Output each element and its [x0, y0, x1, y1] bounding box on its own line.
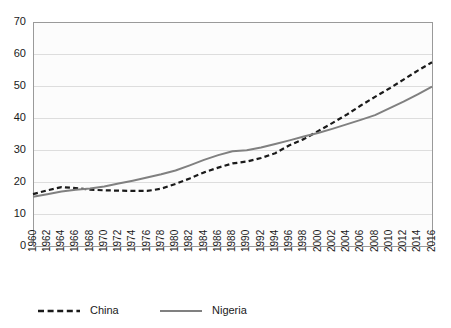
- legend-label-china: China: [90, 304, 120, 316]
- x-tick-label: 2006: [354, 229, 365, 252]
- y-tick-label: 0: [20, 239, 26, 251]
- x-axis-tick-labels: 1960196219641966196819701972197419761978…: [27, 229, 437, 252]
- x-tick-label: 2012: [397, 229, 408, 252]
- x-tick-label: 1992: [255, 229, 266, 252]
- x-tick-label: 1974: [126, 229, 137, 252]
- x-tick-label: 2004: [340, 229, 351, 252]
- x-tick-label: 1980: [169, 229, 180, 252]
- x-tick-label: 1976: [141, 229, 152, 252]
- x-tick-label: 1964: [55, 229, 66, 252]
- y-tick-label: 20: [14, 175, 26, 187]
- x-tick-label: 1984: [198, 229, 209, 252]
- x-tick-label: 2000: [312, 229, 323, 252]
- y-tick-label: 70: [14, 15, 26, 27]
- x-tick-label: 1978: [155, 229, 166, 252]
- x-tick-label: 1982: [183, 229, 194, 252]
- x-tick-label: 1994: [269, 229, 280, 252]
- chart-legend: ChinaNigeria: [38, 304, 248, 316]
- y-tick-label: 10: [14, 207, 26, 219]
- x-tick-label: 2014: [411, 229, 422, 252]
- chart-canvas: 010203040506070 196019621964196619681970…: [0, 0, 451, 328]
- x-tick-label: 1966: [69, 229, 80, 252]
- x-tick-label: 1968: [84, 229, 95, 252]
- x-tick-label: 2010: [383, 229, 394, 252]
- x-tick-label: 1988: [226, 229, 237, 252]
- y-axis-tick-labels: 010203040506070: [14, 15, 26, 251]
- x-tick-label: 1998: [297, 229, 308, 252]
- urbanization-line-chart: 010203040506070 196019621964196619681970…: [0, 0, 451, 328]
- x-tick-label: 2002: [326, 229, 337, 252]
- y-tick-label: 30: [14, 143, 26, 155]
- x-tick-label: 2016: [426, 229, 437, 252]
- y-tick-label: 60: [14, 47, 26, 59]
- x-tick-label: 1960: [27, 229, 38, 252]
- x-tick-label: 1986: [212, 229, 223, 252]
- x-tick-label: 1970: [98, 229, 109, 252]
- y-tick-label: 50: [14, 79, 26, 91]
- plot-background: [33, 22, 432, 246]
- legend-label-nigeria: Nigeria: [212, 304, 248, 316]
- x-tick-label: 1972: [112, 229, 123, 252]
- x-tick-label: 1990: [240, 229, 251, 252]
- x-tick-label: 1996: [283, 229, 294, 252]
- x-tick-label: 2008: [369, 229, 380, 252]
- x-tick-label: 1962: [41, 229, 52, 252]
- y-tick-label: 40: [14, 111, 26, 123]
